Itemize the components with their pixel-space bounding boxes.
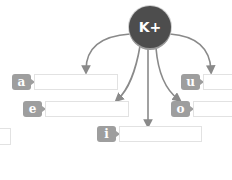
tag-o: o: [171, 101, 190, 117]
answer-box-u[interactable]: [203, 74, 232, 90]
tag-a: a: [12, 74, 31, 90]
answer-box-i[interactable]: [119, 126, 202, 142]
tag-i: i: [97, 126, 116, 142]
arrow-to-a: [86, 34, 130, 70]
answer-box-o[interactable]: [193, 101, 232, 117]
tag-u: u: [181, 74, 200, 90]
ion-label: K+: [139, 19, 162, 35]
partial-answer-box[interactable]: [0, 128, 11, 145]
arrow-to-o: [156, 48, 178, 99]
potassium-ion-node: K+: [129, 6, 171, 48]
arrows-layer: [0, 0, 232, 180]
arrow-to-e: [118, 46, 140, 99]
answer-box-a[interactable]: [34, 74, 118, 90]
answer-box-e[interactable]: [45, 101, 129, 117]
arrow-to-u: [170, 34, 211, 70]
tag-e: e: [23, 101, 42, 117]
